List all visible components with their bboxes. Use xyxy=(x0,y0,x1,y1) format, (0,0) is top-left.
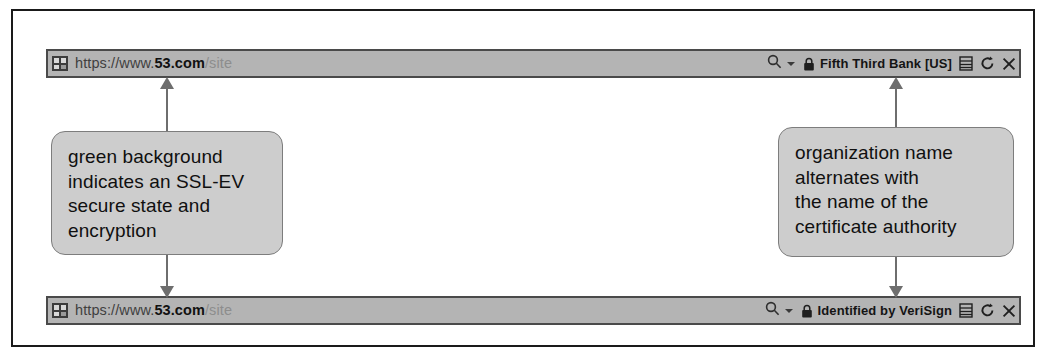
callout-right-line-2: alternates with xyxy=(795,166,997,191)
callout-right-line-1: organization name xyxy=(795,141,997,166)
address-bar-controls-bottom: Identified by VeriSign xyxy=(765,298,1016,323)
address-bar-bottom[interactable]: https://www.53.com/site xyxy=(46,296,1021,325)
arrow-head-icon xyxy=(160,286,174,298)
refresh-icon[interactable] xyxy=(980,303,995,318)
search-icon xyxy=(765,301,780,320)
arrow-head-icon xyxy=(889,286,903,298)
callout-right-line-3: the name of the xyxy=(795,190,997,215)
security-status-label-top: Fifth Third Bank [US] xyxy=(820,57,952,70)
refresh-icon[interactable] xyxy=(980,56,995,71)
stop-icon[interactable] xyxy=(1002,304,1016,318)
figure-frame: https://www.53.com/site xyxy=(11,9,1035,347)
address-bar-top[interactable]: https://www.53.com/site xyxy=(46,49,1021,78)
url-domain: 53.com xyxy=(154,56,205,71)
url-text-top[interactable]: https://www.53.com/site xyxy=(75,56,767,71)
compatibility-view-icon[interactable] xyxy=(959,56,973,71)
url-text-bottom[interactable]: https://www.53.com/site xyxy=(75,303,765,318)
callout-left-line-2: indicates an SSL-EV xyxy=(68,170,266,195)
arrow-right-up xyxy=(889,77,903,129)
url-path: /site xyxy=(205,56,232,71)
callout-left: green background indicates an SSL-EV sec… xyxy=(51,131,283,255)
security-status-label-bottom: Identified by VeriSign xyxy=(818,304,952,317)
address-bar-controls-top: Fifth Third Bank [US] xyxy=(767,51,1016,76)
site-favicon-icon xyxy=(52,303,68,318)
compatibility-view-icon[interactable] xyxy=(959,303,973,318)
search-button-top[interactable] xyxy=(767,54,795,73)
callout-left-line-1: green background xyxy=(68,145,266,170)
url-scheme: https://www. xyxy=(75,56,154,71)
chevron-down-icon[interactable] xyxy=(787,62,795,66)
chevron-down-icon[interactable] xyxy=(785,309,793,313)
search-icon xyxy=(767,54,782,73)
callout-left-line-4: encryption xyxy=(68,219,266,244)
callout-right-line-4: certificate authority xyxy=(795,215,997,240)
padlock-icon xyxy=(801,304,813,318)
arrow-shaft xyxy=(166,254,168,288)
arrow-shaft xyxy=(895,87,897,129)
site-favicon-icon xyxy=(52,56,68,71)
arrow-shaft xyxy=(895,257,897,288)
stop-icon[interactable] xyxy=(1002,57,1016,71)
search-button-bottom[interactable] xyxy=(765,301,793,320)
url-domain: 53.com xyxy=(154,303,205,318)
arrow-shaft xyxy=(166,87,168,133)
url-path: /site xyxy=(205,303,232,318)
url-scheme: https://www. xyxy=(75,303,154,318)
arrow-right-down xyxy=(889,257,903,298)
arrow-left-down xyxy=(160,254,174,298)
callout-right: organization name alternates with the na… xyxy=(778,127,1014,257)
arrow-left-up xyxy=(160,77,174,133)
padlock-icon xyxy=(803,57,815,71)
figure-root: https://www.53.com/site xyxy=(0,0,1046,359)
callout-left-line-3: secure state and xyxy=(68,194,266,219)
